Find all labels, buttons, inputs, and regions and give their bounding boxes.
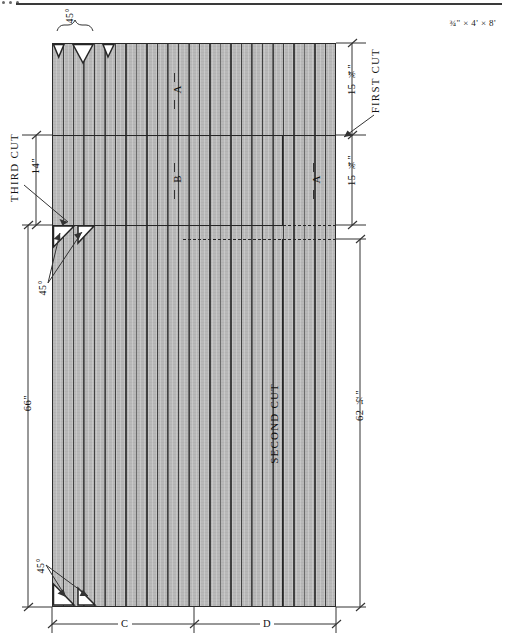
drawing-sheet: ¾" × 4' × 8' A B	[0, 0, 508, 642]
annotation-overlay	[0, 0, 508, 642]
dim-label-15-3-4-upper: 15 ¾"	[346, 64, 357, 95]
angle-label-top: 45°	[64, 8, 75, 24]
dim-label-62-1-2: 62 ½"	[354, 390, 365, 421]
first-cut-label: FIRST CUT	[369, 48, 381, 113]
dim-label-14: 14"	[30, 158, 41, 174]
dim-label-d: D	[260, 618, 274, 629]
angle-label-middle: 45°	[37, 280, 48, 296]
third-cut-label: THIRD CUT	[8, 133, 20, 202]
dim-label-66: 66"	[22, 395, 33, 411]
dim-label-c: C	[118, 618, 132, 629]
dim-label-15-3-4-lower: 15 ¾"	[346, 155, 357, 186]
angle-label-bottom: 45°	[35, 558, 46, 574]
